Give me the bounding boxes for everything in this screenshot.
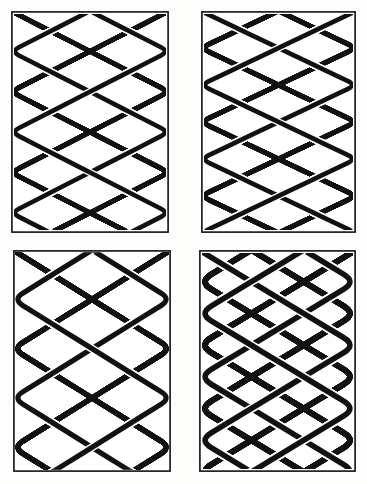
panel-top-right bbox=[201, 11, 356, 233]
panel-bottom-right bbox=[199, 250, 356, 472]
knotwork-plate bbox=[0, 0, 367, 484]
interlace-weave bbox=[11, 11, 169, 233]
panel-top-left bbox=[11, 11, 169, 233]
interlace-weave bbox=[201, 11, 356, 233]
interlace-weave bbox=[199, 250, 356, 472]
interlace-weave bbox=[13, 250, 171, 472]
panel-bottom-left bbox=[13, 250, 171, 472]
